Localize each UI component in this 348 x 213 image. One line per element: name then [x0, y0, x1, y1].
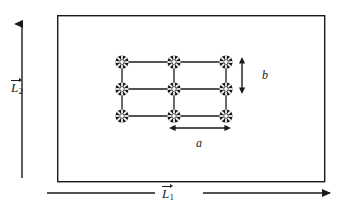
vector-L2-label: L2	[11, 78, 23, 96]
atom-r1-c2	[167, 55, 180, 68]
atom-r2-c2	[167, 82, 180, 95]
atom-r3-c1	[115, 109, 128, 122]
vector-L1-label: L1	[162, 184, 174, 202]
vector-L1-subscript: 1	[169, 192, 174, 202]
vector-arrow-accent-L1	[162, 184, 174, 188]
atom-r2-c3	[219, 82, 232, 95]
atom-r1-c3	[219, 55, 232, 68]
diagram-canvas	[0, 0, 348, 213]
atom-r3-c2	[167, 109, 180, 122]
outer-boundary-rectangle	[58, 16, 325, 182]
vector-arrow-accent-L2	[11, 78, 23, 82]
atom-r2-c1	[115, 82, 128, 95]
atom-r3-c3	[219, 109, 232, 122]
lattice-diagram-figure: L2 L1 a b	[0, 0, 348, 213]
lattice-constant-b-label: b	[262, 69, 268, 81]
vector-L2-subscript: 2	[18, 86, 23, 96]
atom-r1-c1	[115, 55, 128, 68]
lattice-constant-a-label: a	[196, 137, 202, 149]
